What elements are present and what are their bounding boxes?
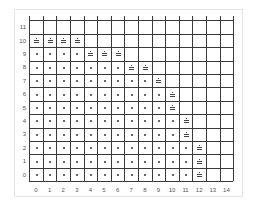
data-point-dot xyxy=(90,120,92,122)
boundary-marker xyxy=(88,51,93,56)
grid-line-horizontal xyxy=(29,128,233,129)
data-point-dot xyxy=(36,80,38,82)
data-point-dot xyxy=(104,174,106,176)
grid-plot: 0123456789101101234567891011121314 xyxy=(0,0,254,205)
y-tick-label: 5 xyxy=(14,105,26,111)
grid-line-horizontal xyxy=(29,154,233,155)
boundary-marker xyxy=(129,65,134,70)
data-point-dot xyxy=(172,120,174,122)
grid-line-vertical xyxy=(233,16,234,181)
data-point-dot xyxy=(36,107,38,109)
data-point-dot xyxy=(36,53,38,55)
x-tick-label: 10 xyxy=(165,187,179,193)
data-point-dot xyxy=(158,161,160,163)
data-point-dot xyxy=(158,147,160,149)
boundary-marker xyxy=(75,38,80,43)
data-point-dot xyxy=(76,67,78,69)
data-point-dot xyxy=(76,174,78,176)
y-tick-label: 4 xyxy=(14,118,26,124)
data-point-dot xyxy=(36,174,38,176)
boundary-marker xyxy=(170,92,175,97)
data-point-dot xyxy=(185,161,187,163)
data-point-dot xyxy=(49,80,51,82)
boundary-marker xyxy=(197,159,202,164)
data-point-dot xyxy=(63,120,65,122)
data-point-dot xyxy=(185,147,187,149)
grid-line-horizontal xyxy=(29,47,233,48)
boundary-marker xyxy=(61,38,66,43)
data-point-dot xyxy=(63,53,65,55)
data-point-dot xyxy=(144,80,146,82)
data-point-dot xyxy=(172,174,174,176)
data-point-dot xyxy=(172,161,174,163)
data-point-dot xyxy=(131,80,133,82)
data-point-dot xyxy=(104,80,106,82)
grid-line-vertical xyxy=(124,16,125,181)
data-point-dot xyxy=(185,174,187,176)
data-point-dot xyxy=(36,120,38,122)
data-point-dot xyxy=(63,80,65,82)
y-tick-label: 3 xyxy=(14,131,26,137)
data-point-dot xyxy=(90,134,92,136)
y-tick-label: 6 xyxy=(14,91,26,97)
x-tick-label: 12 xyxy=(192,187,206,193)
grid-line-vertical xyxy=(29,16,30,181)
data-point-dot xyxy=(144,134,146,136)
grid-line-vertical xyxy=(56,16,57,181)
x-tick-label: 1 xyxy=(43,187,57,193)
y-tick-label: 11 xyxy=(14,24,26,30)
y-tick-label: 9 xyxy=(14,51,26,57)
data-point-dot xyxy=(131,174,133,176)
data-point-dot xyxy=(144,94,146,96)
data-point-dot xyxy=(49,107,51,109)
data-point-dot xyxy=(131,147,133,149)
data-point-dot xyxy=(172,134,174,136)
data-point-dot xyxy=(49,94,51,96)
data-point-dot xyxy=(76,120,78,122)
data-point-dot xyxy=(117,120,119,122)
grid-line-horizontal xyxy=(29,141,233,142)
grid-line-horizontal xyxy=(29,61,233,62)
x-tick-label: 0 xyxy=(29,187,43,193)
boundary-marker xyxy=(156,78,161,83)
data-point-dot xyxy=(49,120,51,122)
data-point-dot xyxy=(104,120,106,122)
data-point-dot xyxy=(63,161,65,163)
data-point-dot xyxy=(49,147,51,149)
data-point-dot xyxy=(158,174,160,176)
boundary-marker xyxy=(197,145,202,150)
boundary-marker xyxy=(34,38,39,43)
data-point-dot xyxy=(36,147,38,149)
x-tick-label: 13 xyxy=(206,187,220,193)
data-point-dot xyxy=(158,120,160,122)
data-point-dot xyxy=(63,174,65,176)
data-point-dot xyxy=(76,147,78,149)
data-point-dot xyxy=(144,147,146,149)
boundary-marker xyxy=(102,51,107,56)
boundary-marker xyxy=(184,132,189,137)
grid-line-vertical xyxy=(220,16,221,181)
data-point-dot xyxy=(131,120,133,122)
data-point-dot xyxy=(117,67,119,69)
data-point-dot xyxy=(104,107,106,109)
grid-line-vertical xyxy=(206,16,207,181)
data-point-dot xyxy=(117,147,119,149)
grid-line-vertical xyxy=(84,16,85,181)
data-point-dot xyxy=(76,80,78,82)
grid-line-horizontal xyxy=(29,168,233,169)
data-point-dot xyxy=(90,147,92,149)
x-tick-label: 2 xyxy=(56,187,70,193)
data-point-dot xyxy=(131,107,133,109)
data-point-dot xyxy=(131,94,133,96)
data-point-dot xyxy=(49,134,51,136)
boundary-marker xyxy=(184,118,189,123)
grid-line-horizontal xyxy=(29,114,233,115)
data-point-dot xyxy=(117,94,119,96)
boundary-marker xyxy=(197,172,202,177)
data-point-dot xyxy=(104,134,106,136)
data-point-dot xyxy=(158,134,160,136)
data-point-dot xyxy=(104,67,106,69)
x-tick-label: 3 xyxy=(70,187,84,193)
x-tick-label: 7 xyxy=(124,187,138,193)
data-point-dot xyxy=(90,94,92,96)
